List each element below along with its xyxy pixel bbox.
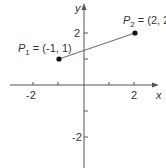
coordinate-plane: y x -2 2 2 -2 P1 = (-1, 1) P2 = (2, 2) <box>0 0 166 168</box>
point-p1 <box>56 56 61 61</box>
x-axis-arrow-icon <box>152 83 159 88</box>
point-p2-label: P2 = (2, 2) <box>123 14 166 29</box>
point-p1-label: P1 = (-1, 1) <box>18 42 72 57</box>
point-p2 <box>132 30 137 35</box>
x-tick-label-2: 2 <box>131 89 137 101</box>
y-axis-arrow-icon <box>82 3 87 10</box>
y-tick-label-neg2: -2 <box>72 131 82 143</box>
y-tick-label-2: 2 <box>74 27 80 39</box>
y-axis-label: y <box>74 2 82 14</box>
x-tick-label-neg2: -2 <box>26 89 36 101</box>
x-axis-label: x <box>155 89 162 101</box>
